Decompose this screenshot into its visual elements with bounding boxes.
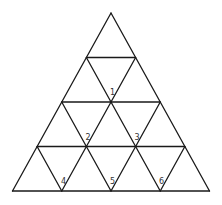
grid-edges	[13, 13, 210, 191]
vertex-label-2: 2	[85, 133, 90, 142]
right-diagonal-1	[86, 58, 160, 192]
vertex-label-5: 5	[110, 177, 115, 186]
left-diagonal-1	[62, 58, 136, 192]
vertex-label-3: 3	[134, 133, 139, 142]
right-diagonal-3	[37, 147, 62, 192]
vertex-labels: 1 2 3 4 5 6	[61, 88, 164, 186]
triangle-grid-diagram: 1 2 3 4 5 6	[0, 0, 222, 205]
vertex-label-1: 1	[110, 88, 115, 97]
vertex-label-4: 4	[61, 177, 66, 186]
vertex-label-6: 6	[159, 177, 164, 186]
